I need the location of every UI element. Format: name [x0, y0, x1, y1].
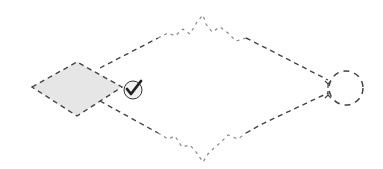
checkmark-icon[interactable]: [124, 81, 142, 99]
lower-branch-edge: [100, 93, 328, 162]
gateway-diamond[interactable]: [32, 62, 122, 116]
upper-branch-edge: [100, 15, 328, 80]
end-event-circle[interactable]: [325, 71, 363, 105]
diagram-canvas: [0, 0, 383, 169]
